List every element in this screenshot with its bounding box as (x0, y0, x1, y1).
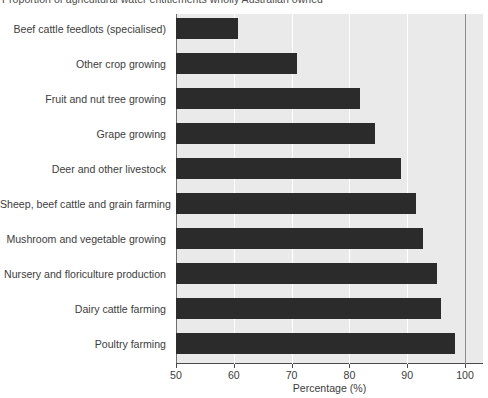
category-axis: Beef cattle feedlots (specialised)Other … (0, 14, 172, 364)
x-tick-label: 70 (272, 369, 312, 381)
category-label: Beef cattle feedlots (specialised) (0, 23, 166, 35)
category-label: Dairy cattle farming (0, 303, 166, 315)
x-tick-label: 100 (445, 369, 485, 381)
gridline-100 (465, 14, 466, 364)
bar (176, 263, 437, 284)
bar (176, 228, 423, 249)
plot-area (176, 14, 483, 364)
bar (176, 123, 375, 144)
bar (176, 158, 401, 179)
bar (176, 53, 297, 74)
x-tick-mark (176, 364, 177, 368)
x-tick-mark (292, 364, 293, 368)
bar (176, 88, 360, 109)
bar (176, 18, 238, 39)
bar (176, 298, 441, 319)
category-label: Sheep, beef cattle and grain farming (0, 198, 166, 210)
x-tick-mark (234, 364, 235, 368)
x-tick-label: 50 (156, 369, 196, 381)
x-axis-title: Percentage (%) (176, 382, 483, 394)
category-label: Grape growing (0, 128, 166, 140)
category-label: Deer and other livestock (0, 163, 166, 175)
bar-chart-figure: Proportion of agricultural water entitle… (0, 0, 488, 398)
category-label: Poultry farming (0, 338, 166, 350)
chart-title: Proportion of agricultural water entitle… (2, 0, 482, 5)
x-tick-label: 60 (214, 369, 254, 381)
bar (176, 333, 455, 354)
x-tick-label: 80 (329, 369, 369, 381)
category-label: Nursery and floriculture production (0, 268, 166, 280)
x-tick-label: 90 (387, 369, 427, 381)
x-tick-mark (349, 364, 350, 368)
category-label: Mushroom and vegetable growing (0, 233, 166, 245)
category-label: Other crop growing (0, 58, 166, 70)
x-tick-mark (407, 364, 408, 368)
category-label: Fruit and nut tree growing (0, 93, 166, 105)
bar (176, 193, 416, 214)
x-tick-mark (465, 364, 466, 368)
